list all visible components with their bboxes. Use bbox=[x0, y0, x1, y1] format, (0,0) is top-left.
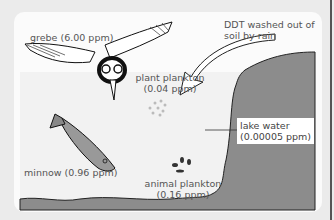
rain-caption: DDT washed out of soil by rain bbox=[224, 19, 315, 41]
plant-plankton-label: plant plankton (0.04 ppm) bbox=[130, 72, 210, 94]
plant-plankton-name: plant plankton bbox=[130, 72, 210, 83]
plant-plankton-ppm: (0.04 ppm) bbox=[130, 83, 210, 94]
animal-plankton-name: animal plankton bbox=[143, 178, 223, 189]
animal-plankton-ppm: (0.16 ppm) bbox=[143, 189, 223, 200]
lake-water-ppm: (0.00005 ppm) bbox=[240, 131, 311, 142]
animal-plankton-label: animal plankton (0.16 ppm) bbox=[143, 178, 223, 200]
right-edge-divider bbox=[330, 0, 332, 220]
rain-caption-line2: soil by rain bbox=[224, 30, 315, 41]
lake-water-label: lake water (0.00005 ppm) bbox=[237, 118, 314, 144]
grebe-label: grebe (6.00 ppm) bbox=[30, 32, 113, 43]
lake-water-name: lake water bbox=[240, 120, 311, 131]
rain-caption-line1: DDT washed out of bbox=[224, 19, 315, 30]
minnow-label: minnow (0.96 ppm) bbox=[24, 167, 117, 178]
